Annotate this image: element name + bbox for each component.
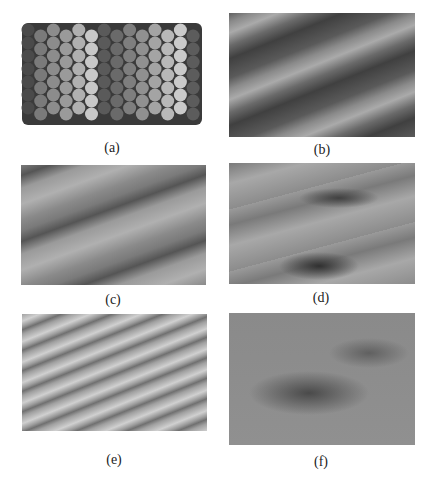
caption-b: (b) [292, 142, 352, 158]
caption-e: (e) [84, 452, 144, 468]
caption-c: (c) [83, 292, 143, 308]
caption-a: (a) [82, 140, 142, 156]
caption-f: (f) [291, 454, 351, 470]
panel-f-micrograph [229, 313, 415, 445]
panel-c-micrograph [21, 165, 206, 285]
caption-d: (d) [291, 290, 351, 306]
ball-model-graphic [20, 20, 205, 130]
panel-a-ball-model [20, 20, 205, 130]
panel-d-micrograph [229, 163, 415, 284]
panel-e-micrograph [22, 314, 207, 431]
panel-b-micrograph [229, 13, 415, 137]
